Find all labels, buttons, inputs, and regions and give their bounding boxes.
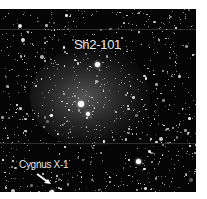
star (9, 152, 10, 153)
star (84, 159, 85, 160)
star (11, 166, 13, 168)
star (174, 191, 175, 192)
star (164, 184, 166, 186)
star (120, 185, 122, 187)
star (141, 188, 142, 189)
star (149, 47, 150, 48)
star (176, 125, 177, 126)
star-field-image: Sh2-101 Cygnus X-1 (0, 9, 196, 192)
star (121, 181, 122, 182)
star (169, 104, 171, 106)
star (126, 152, 127, 153)
star (189, 178, 193, 182)
star (5, 16, 6, 17)
star (86, 117, 88, 119)
star (130, 166, 131, 167)
star (80, 172, 81, 173)
star (148, 156, 150, 158)
star (179, 125, 180, 126)
star (12, 116, 13, 117)
star (65, 26, 66, 27)
star (162, 182, 164, 184)
star (27, 186, 28, 187)
star (44, 52, 45, 53)
star (130, 96, 131, 97)
star (85, 95, 86, 96)
star (183, 166, 185, 168)
star (76, 75, 77, 76)
bright-star (136, 159, 141, 164)
star (51, 12, 52, 13)
star (186, 175, 187, 176)
star (138, 12, 140, 14)
star (116, 14, 117, 15)
star (132, 181, 133, 182)
star (5, 187, 7, 189)
star (128, 128, 130, 130)
star (178, 75, 181, 78)
star (109, 177, 111, 179)
star (187, 140, 188, 141)
star (123, 17, 125, 19)
star (174, 74, 175, 75)
star (149, 182, 150, 183)
star (140, 11, 141, 12)
star (19, 188, 20, 189)
star (16, 104, 18, 106)
star (176, 71, 177, 72)
star (151, 123, 152, 124)
star (83, 17, 85, 19)
star (44, 68, 45, 69)
star (94, 34, 95, 35)
star (180, 19, 181, 20)
star (178, 127, 180, 129)
star (121, 26, 122, 27)
star (56, 175, 58, 177)
star (169, 186, 170, 187)
star (141, 121, 142, 122)
star (168, 79, 169, 80)
star (126, 46, 127, 47)
star (32, 82, 33, 83)
star (185, 109, 186, 110)
star (116, 32, 117, 33)
star (153, 188, 154, 189)
star (165, 176, 166, 177)
star (168, 38, 169, 39)
star (24, 143, 25, 144)
star (125, 77, 126, 78)
star (162, 155, 163, 156)
star (49, 77, 50, 78)
star (122, 139, 123, 140)
star (156, 176, 157, 177)
star (14, 134, 15, 135)
star (23, 14, 24, 15)
star (113, 139, 115, 141)
star (153, 49, 154, 50)
star (149, 16, 150, 17)
star (141, 99, 143, 101)
star (9, 109, 10, 110)
star (14, 167, 17, 170)
star (1, 163, 2, 164)
star (23, 132, 24, 133)
star (86, 34, 87, 35)
star (172, 76, 173, 77)
star (146, 21, 147, 22)
star (44, 42, 46, 44)
star (174, 168, 175, 169)
star (167, 18, 168, 19)
star (8, 117, 10, 119)
star (193, 100, 194, 101)
star (171, 44, 173, 46)
star (134, 109, 135, 110)
star (154, 53, 156, 55)
star (136, 133, 138, 135)
star (63, 29, 65, 31)
star (21, 33, 22, 34)
star (63, 46, 66, 49)
star (159, 190, 160, 191)
star (163, 125, 165, 127)
star (107, 185, 108, 186)
star (16, 149, 18, 151)
